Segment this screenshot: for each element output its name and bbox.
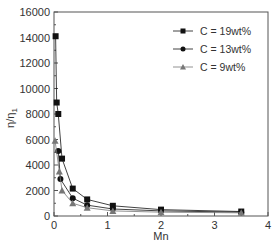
- legend-item: C = 19wt%: [173, 25, 251, 37]
- circle-marker: [181, 47, 186, 52]
- square-marker: [84, 196, 90, 202]
- y-tick-label: 6000: [26, 134, 50, 146]
- y-tick-label: 12000: [19, 57, 50, 69]
- legend-label: C = 13wt%: [200, 43, 251, 55]
- y-axis: 0200040006000800010000120001400016000: [19, 6, 58, 222]
- y-tick-label: 0: [44, 210, 50, 222]
- x-tick-label: 0: [51, 219, 57, 231]
- y-tick-label: 2000: [26, 185, 50, 197]
- square-marker: [53, 33, 59, 39]
- series-2: [52, 137, 245, 216]
- svg-text:η/η1: η/η1: [4, 108, 19, 128]
- y-tick-label: 16000: [19, 6, 50, 18]
- x-axis-title: Mn: [153, 230, 168, 242]
- y-tick-label: 14000: [19, 32, 50, 44]
- square-marker: [55, 111, 61, 117]
- x-tick-label: 4: [265, 219, 271, 231]
- legend-label: C = 19wt%: [200, 25, 251, 37]
- legend-item: C = 9wt%: [173, 61, 245, 73]
- x-tick-label: 3: [211, 219, 217, 231]
- square-marker: [59, 156, 65, 162]
- triangle-marker: [59, 187, 66, 194]
- y-tick-label: 8000: [26, 108, 50, 120]
- y-tick-label: 10000: [19, 83, 50, 95]
- series-line: [55, 141, 241, 213]
- square-marker: [70, 186, 76, 192]
- legend: C = 19wt%C = 13wt%C = 9wt%: [173, 25, 251, 73]
- x-tick-label: 1: [104, 219, 110, 231]
- chart-canvas: 01234 0200040006000800010000120001400016…: [0, 0, 279, 245]
- legend-label: C = 9wt%: [200, 61, 245, 73]
- y-axis-title: η/η1: [4, 108, 19, 128]
- series-1: [55, 148, 244, 215]
- square-marker: [54, 100, 60, 106]
- legend-item: C = 13wt%: [173, 43, 251, 55]
- square-marker: [181, 29, 186, 34]
- y-tick-label: 4000: [26, 159, 50, 171]
- triangle-marker: [56, 168, 63, 175]
- triangle-marker: [52, 137, 59, 144]
